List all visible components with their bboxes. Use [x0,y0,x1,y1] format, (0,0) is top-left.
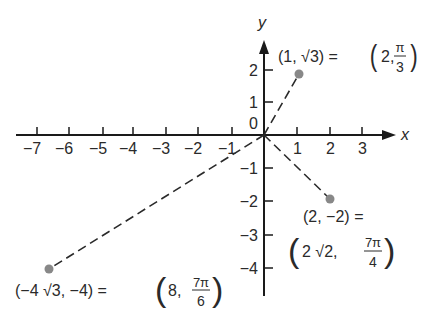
y-tick-label: 1 [249,94,258,111]
p1-close-paren: ) [410,39,417,73]
label-p3: (−4 √3, −4) = ( 8, 7π 6 ) [15,270,223,309]
p2-close-paren: ) [384,231,395,269]
y-tick-label: −3 [240,227,258,244]
x-tick-label: 2 [326,140,335,157]
point-p3 [45,265,54,274]
p3-polar-r: 8, [168,282,181,299]
x-axis-arrow-icon [382,130,396,140]
y-tick-label: −2 [240,193,258,210]
point-p1 [295,70,304,79]
point-p2 [326,195,335,204]
p1-polar-r: 2, [381,48,394,65]
p2-theta-den: 4 [369,254,377,270]
x-tick-label: −4 [119,140,137,157]
p1-theta-den: 3 [396,59,404,75]
polar-coordinates-diagram: x −7−6−5−4−3−2−1123 y 21−1−2−3−4 0 (1, √… [0,0,442,324]
ray-p1 [264,74,299,135]
x-tick-label: 3 [358,140,367,157]
p2-open-paren: ( [288,231,300,269]
p1-cartesian: (1, √3) = [278,48,338,65]
label-p2: (2, −2) = ( 2 √2, 7π 4 ) [288,208,395,270]
x-tick-label: 1 [293,140,302,157]
y-axis: y 21−1−2−3−4 [240,14,273,296]
x-tick-label: −7 [23,140,41,157]
y-tick-label: 2 [249,62,258,79]
y-axis-arrow-icon [259,40,269,54]
y-tick-label: −1 [240,160,258,177]
x-tick-label: −6 [55,140,73,157]
p3-cartesian: (−4 √3, −4) = [15,282,107,299]
x-axis-label: x [400,126,410,143]
y-tick-label: −4 [240,260,258,277]
p3-open-paren: ( [155,270,167,308]
p3-theta-den: 6 [197,293,205,309]
x-tick-label: −2 [184,140,202,157]
y-axis-label: y [257,14,267,31]
p1-theta-num: π [396,40,405,55]
p2-theta-num: 7π [365,235,381,250]
x-axis: x −7−6−5−4−3−2−1123 [16,126,410,157]
x-tick-label: −5 [89,140,107,157]
p1-open-paren: ( [370,39,378,73]
p2-polar-r: 2 √2, [302,243,337,260]
p2-cartesian: (2, −2) = [303,208,363,225]
x-tick-label: −3 [152,140,170,157]
p3-theta-num: 7π [193,275,209,290]
origin-label: 0 [249,115,258,132]
p3-close-paren: ) [212,270,223,308]
